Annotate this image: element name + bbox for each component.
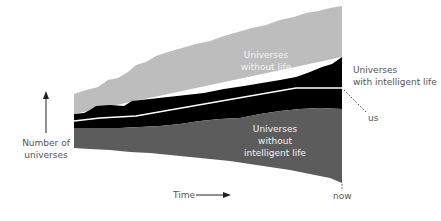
x-axis-arrow-icon	[196, 192, 231, 198]
universes-diagram	[0, 0, 441, 221]
label-without-life: Universes without life	[236, 49, 296, 73]
x-axis-label: Time	[173, 189, 195, 201]
y-axis-label-line2: universes	[16, 149, 76, 161]
y-axis-label: Number of universes	[16, 137, 76, 161]
us-pointer	[344, 90, 366, 112]
y-axis-label-line1: Number of	[16, 137, 76, 149]
y-axis-arrow-icon	[43, 91, 49, 133]
label-without-intelligent-life-line2: without	[235, 135, 315, 147]
label-with-intelligent-life-line1: Universes	[353, 64, 437, 76]
label-without-intelligent-life-line3: intelligent life	[235, 147, 315, 159]
label-without-life-line2: without life	[236, 61, 296, 73]
now-label: now	[333, 190, 352, 202]
label-without-intelligent-life: Universes without intelligent life	[235, 123, 315, 159]
label-without-intelligent-life-line1: Universes	[235, 123, 315, 135]
label-without-life-line1: Universes	[236, 49, 296, 61]
label-us: us	[368, 112, 378, 124]
label-with-intelligent-life-line2: with intelligent life	[353, 76, 437, 88]
label-with-intelligent-life: Universes with intelligent life	[353, 64, 437, 88]
